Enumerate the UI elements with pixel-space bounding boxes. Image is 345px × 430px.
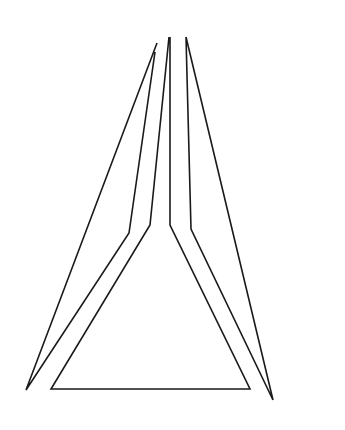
dissection-puzzle-figure <box>0 0 345 430</box>
left-sliver-piece <box>26 43 157 390</box>
figure-svg <box>0 0 345 430</box>
center-triangle-piece <box>51 37 250 389</box>
